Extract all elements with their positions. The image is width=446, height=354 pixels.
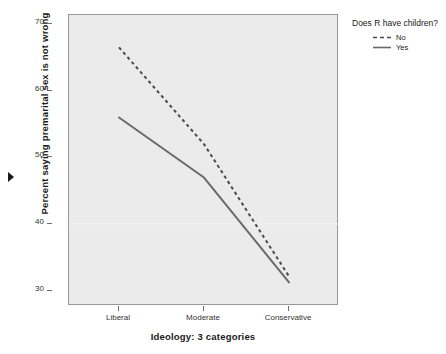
plot-area — [68, 14, 338, 305]
y-axis-tick-label: 60 — [35, 84, 44, 93]
y-axis-tick-mark — [47, 23, 52, 24]
legend: Does R have children? No Yes — [352, 18, 444, 53]
y-axis-title: Percent saying premarital sex is not wro… — [39, 0, 50, 244]
y-axis-tick-mark — [47, 223, 52, 224]
legend-item-label: Yes — [396, 43, 408, 52]
legend-item-no[interactable]: No — [372, 33, 444, 42]
x-axis-tick-mark — [118, 306, 119, 311]
legend-swatch-dashed-icon — [372, 33, 392, 42]
legend-swatch-solid-icon — [372, 43, 392, 52]
x-axis-tick-mark — [288, 306, 289, 311]
series-line-no — [119, 47, 289, 276]
y-axis-tick-label: 40 — [35, 217, 44, 226]
x-axis-tick-mark — [203, 306, 204, 311]
y-axis-tick-label: 30 — [35, 284, 44, 293]
legend-item-yes[interactable]: Yes — [372, 43, 444, 52]
x-axis-title: Ideology: 3 categories — [68, 331, 338, 342]
spss-line-chart: Percent saying premarital sex is not wro… — [0, 0, 446, 354]
series-line-yes — [119, 117, 289, 282]
row-selection-marker-icon — [8, 172, 14, 182]
x-axis-tick-label: Conservative — [238, 313, 338, 322]
y-axis-tick-mark — [47, 90, 52, 91]
legend-title: Does R have children? — [352, 18, 444, 28]
plot-series-canvas — [69, 15, 339, 306]
y-axis-tick-mark — [47, 156, 52, 157]
y-axis-tick-mark — [47, 290, 52, 291]
y-axis-tick-label: 70 — [35, 17, 44, 26]
y-axis-tick-label: 50 — [35, 150, 44, 159]
legend-item-label: No — [396, 33, 406, 42]
